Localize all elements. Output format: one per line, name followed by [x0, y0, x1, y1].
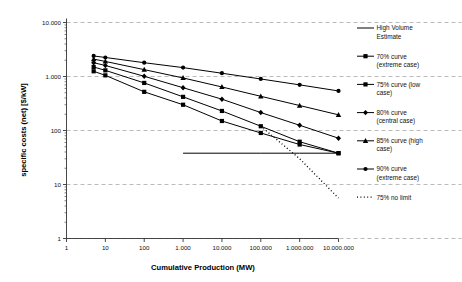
legend-label-line1: High Volume — [377, 24, 414, 32]
chart-container: 1101001.00010.000100.0001.000.00010.000.… — [0, 0, 462, 282]
legend-label-line2: case) — [377, 145, 393, 153]
data-point-marker — [336, 89, 340, 93]
y-tick-label: 100 — [51, 127, 62, 134]
data-point-marker — [181, 103, 185, 107]
data-point-marker — [142, 81, 146, 85]
legend-label-line1: 75% curve (low — [377, 81, 421, 89]
legend-label-line2: (central case) — [377, 117, 416, 125]
data-point-marker — [336, 151, 340, 155]
x-tick-label: 1 — [65, 244, 69, 251]
data-point-marker — [220, 119, 224, 123]
y-tick-label: 10.000 — [42, 19, 61, 26]
legend-label-line2: (extreme case) — [377, 61, 420, 69]
data-point-marker — [181, 95, 185, 99]
data-point-marker — [298, 140, 302, 144]
data-point-marker — [103, 55, 107, 59]
legend-label-line1: 70% curve — [377, 53, 408, 60]
data-point-marker — [103, 68, 107, 72]
data-point-marker — [363, 82, 367, 86]
data-point-marker — [363, 54, 367, 58]
y-tick-label: 10 — [54, 181, 61, 188]
x-axis-title: Cumulative Production (MW) — [151, 263, 255, 272]
data-point-marker — [103, 73, 107, 77]
legend-label-line2: (extreme case) — [377, 174, 420, 182]
log-log-experience-curve-chart: 1101001.00010.000100.0001.000.00010.000.… — [0, 0, 462, 282]
data-point-marker — [181, 66, 185, 70]
data-point-marker — [142, 61, 146, 65]
data-point-marker — [259, 77, 263, 81]
x-tick-label: 10 — [102, 244, 109, 251]
x-tick-label: 1.000.000 — [286, 244, 314, 251]
legend-label-line1: 80% curve — [377, 109, 408, 116]
data-point-marker — [142, 90, 146, 94]
legend-label-line1: 75% no limit — [377, 194, 412, 201]
x-tick-label: 100 — [139, 244, 150, 251]
x-tick-label: 100.000 — [250, 244, 273, 251]
data-point-marker — [92, 65, 96, 69]
x-tick-label: 10.000 — [212, 244, 231, 251]
legend-label-line2: case) — [377, 89, 393, 97]
legend-label-line1: 85% curve (high — [377, 137, 424, 145]
data-point-marker — [298, 83, 302, 87]
data-point-marker — [92, 69, 96, 73]
data-point-marker — [220, 71, 224, 75]
x-tick-label: 1.000 — [175, 244, 191, 251]
legend-label-line1: 90% curve — [377, 165, 408, 172]
y-axis-title: specific costs (net) [$/kW] — [19, 83, 28, 177]
data-point-marker — [92, 54, 96, 58]
data-point-marker — [259, 131, 263, 135]
y-tick-label: 1 — [58, 235, 62, 242]
data-point-marker — [220, 109, 224, 113]
legend-label-line2: Estimate — [377, 33, 402, 40]
data-point-marker — [363, 167, 367, 171]
x-tick-label: 10.000.000 — [323, 244, 355, 251]
y-tick-label: 1.000 — [46, 73, 62, 80]
